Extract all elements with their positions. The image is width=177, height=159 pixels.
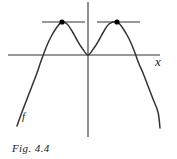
function-plot <box>0 0 177 159</box>
figure-caption: Fig. 4.4 <box>12 142 50 154</box>
left-maximum-point <box>59 19 64 24</box>
right-maximum-point <box>114 19 119 24</box>
figure-container: x f Fig. 4.4 <box>0 0 177 159</box>
x-axis-label: x <box>155 55 161 68</box>
curve-label-f: f <box>22 111 25 122</box>
